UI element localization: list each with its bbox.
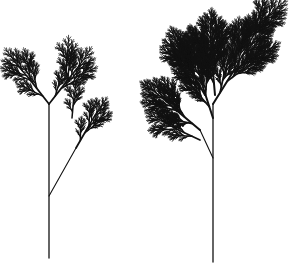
branch-segment bbox=[217, 78, 218, 80]
branch-segment bbox=[145, 105, 148, 106]
branch-segment bbox=[144, 107, 145, 108]
branch-segment bbox=[56, 81, 57, 83]
branch-segment bbox=[186, 52, 187, 54]
branch-segment bbox=[252, 65, 254, 66]
branch-segment bbox=[20, 80, 22, 81]
branch-segment bbox=[101, 126, 102, 127]
branch-segment bbox=[78, 80, 80, 81]
branch-segment bbox=[175, 113, 176, 115]
branch-segment bbox=[169, 81, 170, 82]
branch-segment bbox=[29, 96, 31, 97]
right-fractal-tree bbox=[140, 0, 288, 262]
branch-segment bbox=[188, 71, 189, 73]
branch-segment bbox=[171, 67, 173, 68]
branch-segment bbox=[181, 91, 182, 92]
branch-segment bbox=[187, 55, 188, 57]
branch-segment bbox=[181, 41, 182, 44]
branch-segment bbox=[147, 109, 150, 110]
branch-segment bbox=[6, 58, 7, 60]
branch-segment bbox=[224, 29, 225, 31]
branch-segment bbox=[204, 60, 205, 61]
branch-segment bbox=[30, 69, 31, 72]
branch-segment bbox=[158, 89, 159, 91]
branch-segment bbox=[170, 32, 172, 33]
branch-segment bbox=[83, 62, 84, 64]
branch-segment bbox=[212, 26, 213, 28]
branch-segment bbox=[218, 26, 219, 28]
branch-segment bbox=[243, 47, 245, 48]
branch-segment bbox=[276, 56, 279, 57]
branch-segment bbox=[166, 79, 167, 80]
branch-segment bbox=[151, 85, 153, 86]
branch-segment bbox=[85, 122, 86, 123]
branch-segment bbox=[199, 72, 200, 73]
branch-segment bbox=[24, 59, 25, 62]
branch-segment bbox=[168, 97, 169, 99]
branch-segment bbox=[85, 109, 86, 110]
branch-segment bbox=[250, 58, 252, 59]
branch-segment bbox=[181, 140, 182, 141]
branch-segment bbox=[72, 100, 74, 118]
fractal-trees-figure bbox=[0, 0, 303, 268]
branch-segment bbox=[189, 80, 190, 81]
branch-segment bbox=[162, 50, 163, 51]
branch-segment bbox=[260, 51, 262, 52]
branch-segment bbox=[272, 55, 274, 56]
branch-segment bbox=[206, 25, 207, 28]
branch-segment bbox=[174, 80, 175, 81]
branch-segment bbox=[97, 123, 100, 124]
branch-segment bbox=[154, 108, 155, 110]
branch-segment bbox=[172, 140, 173, 141]
branch-segment bbox=[165, 135, 166, 136]
branch-segment bbox=[33, 95, 35, 96]
branch-segment bbox=[25, 51, 26, 53]
branch-segment bbox=[175, 124, 176, 125]
branch-segment bbox=[169, 79, 170, 80]
branch-segment bbox=[233, 40, 234, 42]
branch-segment bbox=[224, 25, 225, 27]
branch-segment bbox=[223, 22, 224, 24]
branch-segment bbox=[233, 49, 234, 51]
branch-segment bbox=[108, 121, 109, 122]
branch-segment bbox=[29, 66, 30, 69]
branch-segment bbox=[161, 56, 162, 57]
branch-segment bbox=[25, 92, 26, 93]
branch-segment bbox=[54, 86, 55, 87]
branch-segment bbox=[38, 70, 39, 71]
branch-segment bbox=[238, 40, 239, 42]
branch-segment bbox=[227, 28, 229, 29]
branch-segment bbox=[217, 66, 219, 67]
branch-segment bbox=[186, 32, 187, 34]
branch-segment bbox=[89, 113, 90, 125]
branch-segment bbox=[165, 42, 167, 43]
branch-segment bbox=[83, 114, 84, 115]
branch-segment bbox=[180, 123, 181, 124]
branch-segment bbox=[27, 84, 28, 87]
branch-segment bbox=[179, 54, 180, 56]
branch-segment bbox=[150, 110, 151, 112]
branch-segment bbox=[227, 26, 228, 28]
branch-segment bbox=[17, 77, 19, 78]
branch-segment bbox=[176, 129, 200, 140]
branch-segment bbox=[143, 97, 145, 98]
branch-segment bbox=[198, 29, 199, 31]
branch-segment bbox=[85, 125, 86, 126]
branch-segment bbox=[56, 77, 57, 79]
branch-segment bbox=[249, 66, 251, 67]
branch-segment bbox=[265, 58, 268, 59]
branch-segment bbox=[33, 57, 35, 58]
branch-segment bbox=[11, 64, 12, 66]
branch-segment bbox=[52, 82, 53, 83]
branch-segment bbox=[146, 96, 148, 97]
branch-segment bbox=[172, 62, 174, 63]
branch-segment bbox=[83, 105, 84, 106]
branch-segment bbox=[15, 59, 16, 61]
branch-segment bbox=[186, 70, 187, 71]
branch-segment bbox=[104, 122, 105, 123]
branch-segment bbox=[236, 37, 237, 40]
branch-segment bbox=[173, 35, 174, 37]
branch-segment bbox=[172, 80, 173, 82]
branch-segment bbox=[163, 95, 164, 97]
branch-segment bbox=[176, 81, 177, 82]
branch-segment bbox=[34, 70, 35, 73]
